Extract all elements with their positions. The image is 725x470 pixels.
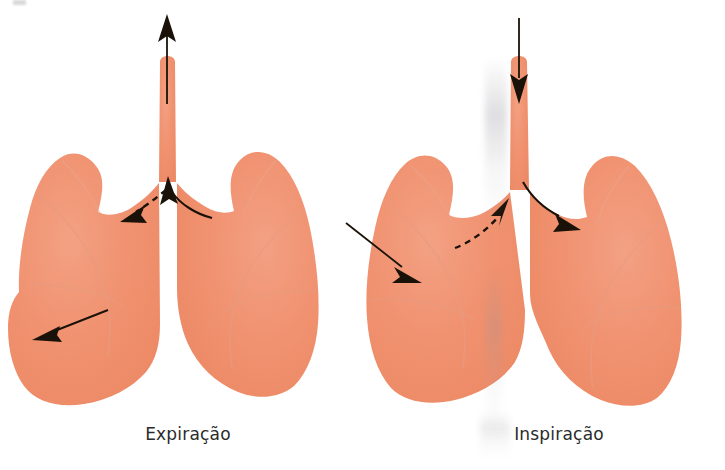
right-lung-shape (530, 156, 682, 406)
expansion-arrow (330, 205, 460, 315)
right-lung-shape (177, 152, 319, 397)
left-lung-shape (8, 154, 160, 406)
lung-breathing-figure: Expiração (0, 0, 725, 470)
panel-expiration: Expiração (0, 0, 362, 470)
expiration-diagram (0, 0, 362, 425)
panel-label-inspiration: Inspiração (363, 424, 725, 444)
panel-label-expiration: Expiração (0, 424, 362, 444)
